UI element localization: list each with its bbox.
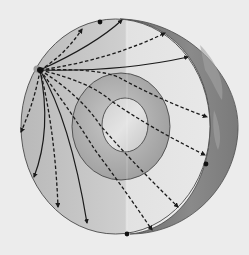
inner-core-layer	[102, 98, 148, 152]
station-dot	[204, 162, 209, 167]
station-dot	[98, 20, 103, 25]
diagram-canvas	[0, 0, 249, 255]
earth-seismic-diagram: Seismic wave paths through Earth's inter…	[0, 0, 249, 255]
station-dot	[125, 232, 130, 237]
earthquake-focus	[37, 67, 43, 73]
